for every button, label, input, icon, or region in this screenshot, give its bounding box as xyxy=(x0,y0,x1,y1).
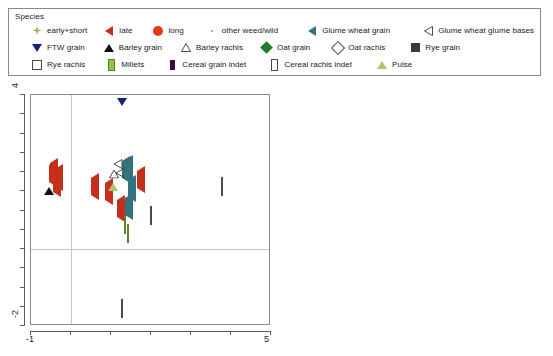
y-axis-tick xyxy=(20,210,25,211)
legend-item-label: Cereal rachis indet xyxy=(284,60,352,69)
legend-row-1: early+shortlatelongother weed/wildGlume … xyxy=(15,22,534,39)
triangle-up-lightgreen-icon xyxy=(374,58,390,72)
legend-row-2: FTW grainBarley grainBarley rachisOat gr… xyxy=(15,39,534,56)
x-axis-tick xyxy=(230,331,231,335)
data-point-millets xyxy=(127,225,129,243)
dot-gray-icon xyxy=(204,24,220,38)
y-axis-tick xyxy=(20,306,25,307)
circle-red-icon xyxy=(150,24,166,38)
bar-green-icon xyxy=(103,58,119,72)
legend-item-label: Barley rachis xyxy=(196,43,243,52)
legend-item-oat-rachis[interactable]: Oat rachis xyxy=(330,39,385,56)
x-axis-max-label: 5 xyxy=(264,334,269,344)
legend-item-early-short[interactable]: early+short xyxy=(29,22,87,39)
y-axis-tick xyxy=(20,325,25,326)
bar-open-icon xyxy=(266,58,282,72)
legend-item-cereal-rachis-indet[interactable]: Cereal rachis indet xyxy=(266,56,352,73)
y-axis-tick xyxy=(20,248,25,249)
y-axis-tick xyxy=(20,190,25,191)
data-point-barley-grain xyxy=(44,170,54,188)
legend-item-rye-rachis[interactable]: Rye rachis xyxy=(29,56,85,73)
triangle-left-teal-icon xyxy=(304,24,320,38)
legend-item-label: late xyxy=(119,26,132,35)
legend-item-label: long xyxy=(168,26,183,35)
legend-item-late[interactable]: late xyxy=(101,22,132,39)
legend-item-label: Glume wheat grain xyxy=(322,26,390,35)
triangle-up-open-icon xyxy=(178,41,194,55)
legend-item-barley-rachis[interactable]: Barley rachis xyxy=(178,39,243,56)
square-dark-icon xyxy=(407,41,423,55)
y-axis-max-label: 4 xyxy=(10,83,20,88)
x-axis-min-label: -1 xyxy=(26,334,34,344)
legend-item-pulse[interactable]: Pulse xyxy=(374,56,412,73)
triangle-left-open-icon xyxy=(420,24,436,38)
legend-item-label: other weed/wild xyxy=(222,26,278,35)
x-axis-tick xyxy=(190,331,191,335)
vertical-reference-line xyxy=(71,95,72,324)
legend-item-other-weed-wild[interactable]: other weed/wild xyxy=(204,22,278,39)
x-axis-tick xyxy=(110,331,111,335)
x-axis-tick xyxy=(270,331,271,335)
data-point-glume-wheat-grain xyxy=(125,198,133,216)
y-axis-min-label: -2 xyxy=(10,310,20,318)
scatter-plot-area xyxy=(30,94,270,325)
legend-item-label: Barley grain xyxy=(119,43,162,52)
legend-item-barley-grain[interactable]: Barley grain xyxy=(101,39,162,56)
legend-item-rye-grain[interactable]: Rye grain xyxy=(407,39,460,56)
y-axis-tick xyxy=(20,133,25,134)
legend-item-long[interactable]: long xyxy=(150,22,183,39)
legend-item-label: Rye grain xyxy=(425,43,460,52)
legend-panel: Species early+shortlatelongother weed/wi… xyxy=(8,8,541,76)
data-point-ftw-grain xyxy=(117,106,127,124)
legend-item-label: Rye rachis xyxy=(47,60,85,69)
y-axis-tick xyxy=(20,152,25,153)
data-point-late xyxy=(91,178,99,196)
y-axis-tick xyxy=(20,94,25,95)
triangle-left-red-icon xyxy=(101,24,117,38)
horizontal-reference-line xyxy=(31,249,269,250)
data-point-cereal-rachis-indet xyxy=(121,300,123,318)
data-point-millets xyxy=(124,216,126,234)
legend-item-label: early+short xyxy=(47,26,87,35)
legend-item-label: FTW grain xyxy=(47,43,85,52)
legend-row-3: Rye rachisMilletsCereal grain indetCerea… xyxy=(15,56,534,73)
data-point-oat-rachis xyxy=(150,207,152,225)
legend-item-ftw-grain[interactable]: FTW grain xyxy=(29,39,85,56)
legend-item-millets[interactable]: Millets xyxy=(103,56,144,73)
legend-item-label: Pulse xyxy=(392,60,412,69)
legend-title: Species xyxy=(15,12,534,22)
legend-item-glume-wheat-glume-bases[interactable]: Glume wheat glume bases xyxy=(420,22,534,39)
legend-item-oat-grain[interactable]: Oat grain xyxy=(259,39,310,56)
legend-item-label: Oat rachis xyxy=(348,43,385,52)
x-axis-tick xyxy=(150,331,151,335)
triangle-down-navy-icon xyxy=(29,41,45,55)
legend-item-label: Millets xyxy=(121,60,144,69)
legend-item-label: Glume wheat glume bases xyxy=(438,26,534,35)
legend-item-label: Oat grain xyxy=(277,43,310,52)
data-point-pulse xyxy=(108,166,118,184)
diamond-open-icon xyxy=(330,41,346,55)
y-axis-tick xyxy=(20,229,25,230)
y-axis-tick xyxy=(20,113,25,114)
data-point-late xyxy=(137,171,145,189)
x-axis-tick xyxy=(70,331,71,335)
triangle-up-black-icon xyxy=(101,41,117,55)
diamond4-olive-icon xyxy=(29,24,45,38)
bar-purple-icon xyxy=(164,58,180,72)
y-axis-tick xyxy=(20,267,25,268)
diamond-green-icon xyxy=(259,41,275,55)
legend-item-cereal-grain-indet[interactable]: Cereal grain indet xyxy=(164,56,246,73)
square-open-icon xyxy=(29,58,45,72)
y-axis-tick xyxy=(20,287,25,288)
y-axis-tick xyxy=(20,171,25,172)
legend-item-label: Cereal grain indet xyxy=(182,60,246,69)
data-point-rye-rachis xyxy=(221,178,223,196)
legend-item-glume-wheat-grain[interactable]: Glume wheat grain xyxy=(304,22,390,39)
